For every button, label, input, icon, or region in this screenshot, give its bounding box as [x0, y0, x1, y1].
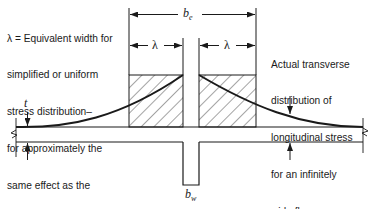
note-line: Actual transverse [271, 59, 353, 71]
note-line: λ = Equivalent width for [7, 33, 113, 45]
note-line: wide flange [271, 206, 353, 209]
note-line: for approximately the [7, 143, 113, 155]
thickness-label: t [22, 96, 29, 111]
note-line: longitudinal stress [271, 132, 353, 144]
web [183, 142, 199, 185]
lambda-dimensions [130, 38, 255, 75]
lambda-left-label: λ [150, 38, 160, 53]
effective-width-label: be [181, 6, 195, 22]
actual-distribution-note: Actual transverse distribution of longit… [271, 34, 353, 209]
note-line: distribution of [271, 95, 353, 107]
note-line: same effect as the [7, 180, 113, 192]
note-line: simplified or uniform [7, 69, 113, 81]
lambda-right-label: λ [222, 38, 232, 53]
note-line: for an infinitely [271, 169, 353, 181]
web-width-label: bw [183, 187, 198, 203]
